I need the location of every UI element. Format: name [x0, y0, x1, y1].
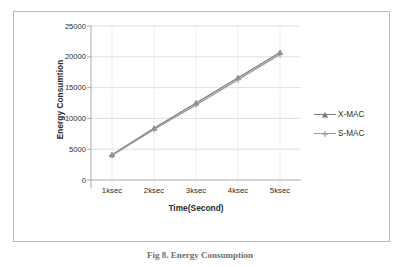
data-point-marker [322, 112, 327, 117]
x-axis-tick-labels: 1ksec2ksec3ksec4ksec5ksec [14, 186, 389, 200]
x-axis-tick-label: 1ksec [90, 186, 134, 195]
x-axis-tick-label: 5ksec [258, 186, 302, 195]
legend-label: X-MAC [336, 110, 364, 119]
legend-item-s-mac[interactable]: S-MAC [314, 124, 388, 143]
x-axis-title: Time(Second) [91, 203, 301, 213]
energy-consumption-line-chart: Energy Consumtion 0500010000150002000025… [14, 12, 389, 241]
x-axis-tick-label: 4ksec [216, 186, 260, 195]
x-axis-tick-label: 3ksec [174, 186, 218, 195]
legend-item-x-mac[interactable]: X-MAC [314, 105, 388, 124]
data-point-marker [322, 130, 328, 136]
chart-legend: X-MACS-MAC [314, 105, 388, 143]
triangle-marker-icon [314, 110, 336, 120]
figure-caption: Fig 8. Energy Consumption [0, 250, 400, 260]
x-axis-tick-label: 2ksec [132, 186, 176, 195]
cross-marker-icon [314, 129, 336, 139]
data-point-marker [235, 76, 241, 82]
figure-frame: Energy Consumtion 0500010000150002000025… [13, 11, 390, 242]
legend-label: S-MAC [336, 129, 364, 138]
data-point-marker [193, 102, 199, 108]
